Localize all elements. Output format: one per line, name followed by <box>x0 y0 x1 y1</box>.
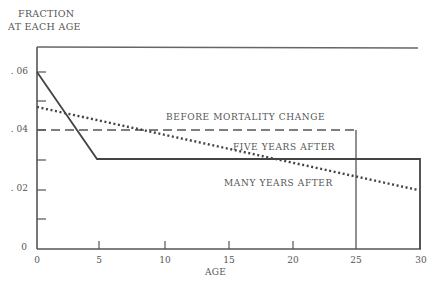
annotation-many-years-after: MANY YEARS AFTER <box>224 178 333 188</box>
x-ticks <box>99 241 293 249</box>
x-axis-label: AGE <box>205 267 226 277</box>
y-tick-label-002: . 02 <box>0 183 28 193</box>
top-border-line <box>37 47 418 48</box>
x-tick-label-25: 25 <box>346 255 366 265</box>
x-tick-label-30: 30 <box>411 255 431 265</box>
x-tick-label-15: 15 <box>219 255 239 265</box>
x-tick-label-10: 10 <box>155 255 175 265</box>
y-ticks <box>37 72 46 219</box>
x-tick-label-5: 5 <box>89 255 109 265</box>
chart-plot <box>0 0 444 294</box>
y-tick-label-004: . 04 <box>0 124 28 134</box>
x-tick-label-0: 0 <box>27 255 47 265</box>
annotation-five-years-after: FIVE YEARS AFTER <box>233 142 335 152</box>
y-tick-label-0: 0 <box>0 242 27 252</box>
x-tick-label-20: 20 <box>283 255 303 265</box>
annotation-before-mortality-change: BEFORE MORTALITY CHANGE <box>166 112 325 122</box>
series-five-years-after <box>37 72 420 249</box>
y-tick-label-006: . 06 <box>0 66 28 76</box>
